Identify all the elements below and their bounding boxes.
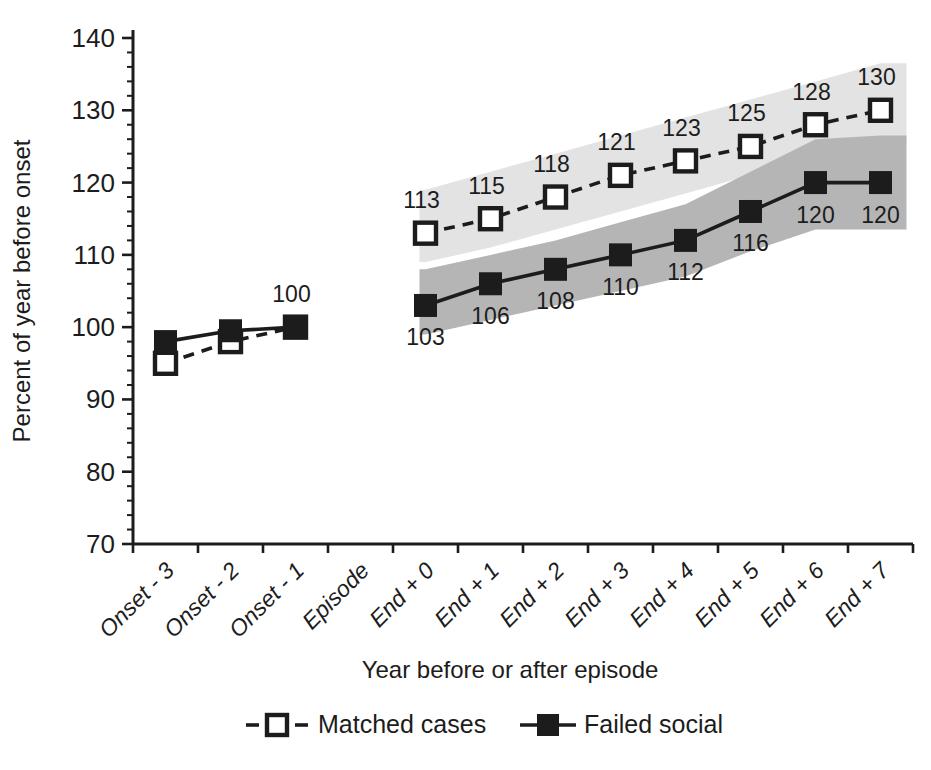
filled-square-marker <box>609 243 632 266</box>
data-label: 106 <box>471 303 509 329</box>
y-tick-label: 130 <box>72 95 115 125</box>
data-label: 121 <box>597 129 635 155</box>
open-square-marker <box>415 223 436 244</box>
data-label: 120 <box>796 202 834 228</box>
open-square-marker <box>740 136 761 157</box>
data-label: 103 <box>406 324 444 350</box>
legend: Matched casesFailed social <box>246 710 723 738</box>
filled-square-marker <box>869 171 892 194</box>
data-label: 100 <box>272 281 310 307</box>
y-tick-label: 80 <box>86 457 115 487</box>
figure-page: 708090100110120130140Onset - 3Onset - 2O… <box>0 0 931 770</box>
line-chart: 708090100110120130140Onset - 3Onset - 2O… <box>0 0 931 770</box>
legend-open-square-marker <box>267 715 287 735</box>
filled-square-marker <box>284 316 307 339</box>
open-square-marker <box>870 100 891 121</box>
x-axis-title: Year before or after episode <box>362 656 659 683</box>
y-tick-label: 70 <box>86 529 115 559</box>
filled-square-marker <box>479 272 502 295</box>
filled-square-marker <box>544 258 567 281</box>
y-tick-label: 110 <box>74 240 115 270</box>
open-square-marker <box>675 150 696 171</box>
legend-item-failed-social: Failed social <box>520 710 723 738</box>
filled-square-marker <box>804 171 827 194</box>
data-label: 120 <box>861 202 899 228</box>
open-square-marker <box>545 187 566 208</box>
open-square-marker <box>805 114 826 135</box>
data-label: 118 <box>533 151 570 177</box>
data-label: 115 <box>468 173 505 199</box>
filled-square-marker <box>674 229 697 252</box>
filled-square-marker <box>154 330 177 353</box>
y-tick-label: 140 <box>72 23 115 53</box>
legend-label: Failed social <box>584 710 723 738</box>
data-label: 123 <box>662 115 700 141</box>
y-tick-label: 120 <box>72 168 115 198</box>
data-label: 108 <box>536 288 574 314</box>
y-axis-title: Percent of year before onset <box>8 139 35 442</box>
filled-square-marker <box>739 200 762 223</box>
open-square-marker <box>610 165 631 186</box>
data-label: 130 <box>857 64 895 90</box>
data-label: 128 <box>792 79 830 105</box>
open-square-marker <box>155 353 176 374</box>
y-tick-label: 90 <box>86 384 115 414</box>
data-label: 125 <box>727 100 765 126</box>
data-label: 112 <box>667 259 704 285</box>
filled-square-marker <box>219 319 242 342</box>
open-square-marker <box>480 208 501 229</box>
legend-item-matched-cases: Matched cases <box>246 710 486 738</box>
y-axis-title-group: Percent of year before onset <box>8 139 35 442</box>
legend-label: Matched cases <box>318 710 486 738</box>
data-label: 110 <box>602 274 639 300</box>
data-label: 113 <box>403 187 440 213</box>
filled-square-marker <box>414 294 437 317</box>
legend-filled-square-marker <box>537 714 559 736</box>
y-tick-label: 100 <box>72 312 115 342</box>
data-label: 116 <box>732 230 769 256</box>
